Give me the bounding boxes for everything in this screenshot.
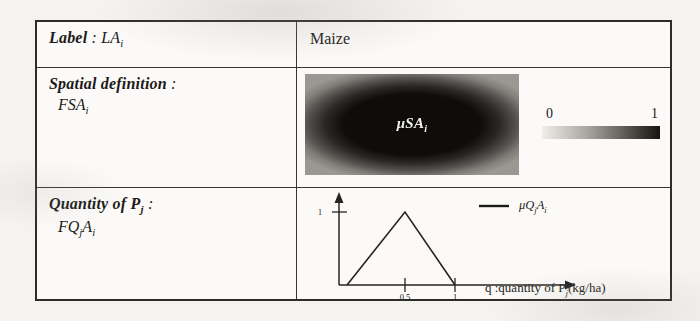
x-tick-label-0-5: 0,5	[400, 292, 411, 299]
colorbar-min-label: 0	[546, 106, 553, 122]
fuzzy-membership-blob: μSAi	[305, 74, 519, 175]
colorbar-gradient-bar	[542, 126, 660, 139]
table-row-quantity: Quantity of Pj : FQjAi 1	[37, 188, 670, 299]
label-formula: LAi	[101, 29, 123, 46]
quantity-term: Quantity of Pj :	[49, 195, 296, 215]
colorbar-tick-labels: 0 1	[540, 106, 662, 122]
cell-quantity-chart: 1 0,5 1 μQjAi q :quantity of Pj(kg/ha)	[297, 188, 670, 299]
quantity-separator: :	[148, 195, 154, 212]
cell-spatial-graphic: μSAi 0 1	[297, 68, 670, 187]
label-formula-subscript: i	[120, 37, 123, 49]
table-row-label: Label : LAi Maize	[37, 22, 670, 68]
cell-spatial-term: Spatial definition : FSAi	[37, 68, 297, 187]
label-term-text: Label	[49, 29, 87, 46]
label-separator: :	[92, 29, 98, 46]
cell-quantity-term: Quantity of Pj : FQjAi	[37, 188, 297, 299]
fuzzy-object-table: Label : LAi Maize Spatial definition : F…	[35, 20, 672, 301]
membership-triangle-line	[347, 212, 455, 285]
spatial-term: Spatial definition :	[49, 75, 296, 93]
quantity-formula: FQjAi	[49, 218, 296, 238]
legend-label-mu-q-a: μQjAi	[519, 198, 547, 215]
x-tick-label-1: 1	[453, 292, 457, 299]
fuzzy-blob-label: μSAi	[397, 115, 428, 134]
spatial-formula-subscript: i	[86, 104, 89, 116]
spatial-separator: :	[171, 75, 177, 92]
colorbar-max-label: 1	[651, 106, 658, 122]
crop-name-value: Maize	[307, 27, 670, 48]
table-row-spatial-definition: Spatial definition : FSAi μSAi 0 1	[37, 68, 670, 188]
cell-label-term: Label : LAi	[37, 22, 297, 67]
y-tick-label-1: 1	[318, 208, 322, 217]
quantity-formula-subscript-2: i	[92, 226, 95, 238]
y-axis-arrowhead	[335, 192, 344, 203]
quantity-term-subscript: j	[141, 203, 144, 215]
quantity-term-text: Quantity of P	[49, 195, 141, 212]
colorbar-legend: 0 1	[540, 106, 662, 139]
spatial-formula: FSAi	[49, 96, 296, 116]
fuzzy-quantity-chart: 1 0,5 1 μQjAi q :quantity of Pj(kg/ha)	[297, 188, 670, 299]
fuzzy-blob-label-subscript: i	[424, 123, 427, 134]
chart-svg: 1 0,5 1	[297, 188, 667, 299]
label-term: Label : LAi	[49, 29, 296, 49]
x-axis-caption: q :quantity of Pj(kg/ha)	[485, 280, 606, 298]
spatial-term-text: Spatial definition	[49, 75, 167, 92]
cell-crop-name: Maize	[297, 22, 670, 67]
legend-label-a-subscript: i	[544, 205, 546, 215]
